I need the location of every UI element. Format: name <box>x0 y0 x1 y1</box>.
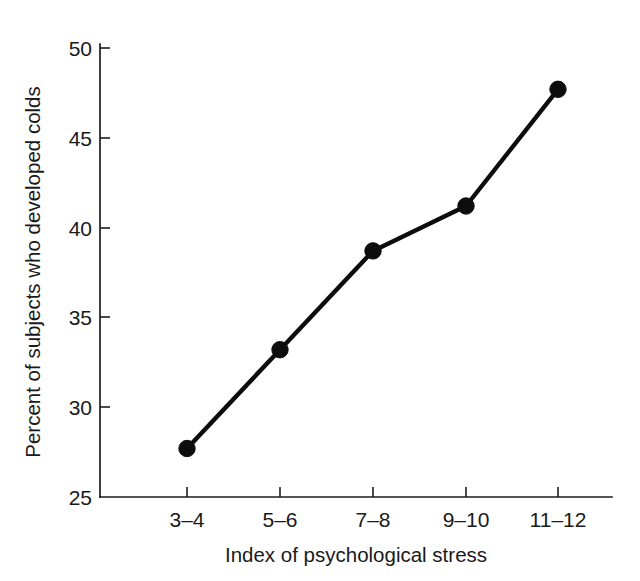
y-axis-ticks <box>100 48 110 407</box>
x-tick-label-1: 5–6 <box>262 508 297 531</box>
data-point-markers <box>179 81 566 457</box>
data-point-marker <box>365 243 381 259</box>
x-tick-label-4: 11–12 <box>530 508 587 531</box>
x-axis-title: Index of psychological stress <box>225 543 487 566</box>
data-point-marker <box>272 342 288 358</box>
y-axis-title: Percent of subjects who developed colds <box>21 86 44 458</box>
data-line-series <box>187 89 558 448</box>
y-tick-label-45: 45 <box>69 127 92 150</box>
y-tick-label-35: 35 <box>69 306 92 329</box>
data-point-marker <box>179 440 195 456</box>
x-axis-ticks <box>187 487 558 497</box>
y-tick-label-25: 25 <box>69 486 92 509</box>
x-tick-label-3: 9–10 <box>443 508 490 531</box>
data-point-marker <box>550 81 566 97</box>
y-tick-label-50: 50 <box>69 37 92 60</box>
data-point-marker <box>458 198 474 214</box>
x-tick-label-2: 7–8 <box>355 508 390 531</box>
line-chart-plot: 50 45 40 35 30 25 3–4 5–6 7–8 9–10 11–12… <box>0 0 640 581</box>
y-tick-label-30: 30 <box>69 396 92 419</box>
y-tick-label-40: 40 <box>69 217 92 240</box>
chart-figure: 50 45 40 35 30 25 3–4 5–6 7–8 9–10 11–12… <box>0 0 640 581</box>
x-tick-label-0: 3–4 <box>169 508 204 531</box>
